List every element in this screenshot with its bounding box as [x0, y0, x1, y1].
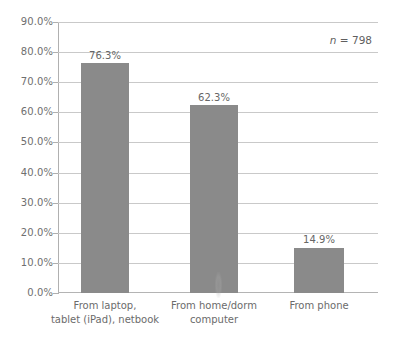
- bar-chart-figure: 90.0% 80.0% 70.0% 60.0% 50.0% 40.0% 30.0…: [0, 0, 396, 343]
- bar-value-label: 62.3%: [178, 92, 250, 103]
- sample-size-annotation: n = 798: [330, 34, 372, 46]
- category-label-line-1: From home/dorm: [171, 300, 257, 311]
- y-tick-label: 80.0%: [1, 47, 53, 57]
- y-tick-label: 40.0%: [1, 168, 53, 178]
- y-tick-label: 20.0%: [1, 228, 53, 238]
- y-tick-label: 50.0%: [1, 137, 53, 147]
- y-tick-label: 70.0%: [1, 77, 53, 87]
- category-label-from-phone: From phone: [263, 299, 375, 313]
- bar-value-label: 76.3%: [69, 50, 141, 61]
- category-label-from-home-dorm-computer: From home/dorm computer: [158, 299, 270, 327]
- category-label-line-2: computer: [158, 313, 270, 327]
- y-tick-label: 30.0%: [1, 198, 53, 208]
- y-tick-label: 90.0%: [1, 17, 53, 27]
- bar-from-laptop-tablet-netbook[interactable]: [81, 63, 129, 293]
- gridline: [58, 22, 378, 23]
- category-label-from-laptop-tablet-netbook: From laptop, tablet (iPad), netbook: [49, 299, 161, 327]
- bar-from-phone[interactable]: [294, 248, 344, 293]
- bar-from-home-dorm-computer[interactable]: [190, 105, 238, 293]
- plot-area: 76.3% 62.3% 14.9% n = 798: [58, 22, 378, 293]
- y-tick-label: 60.0%: [1, 107, 53, 117]
- y-tick-label: 0.0%: [1, 288, 53, 298]
- sample-size-value: = 798: [336, 34, 372, 46]
- y-tick-label: 10.0%: [1, 258, 53, 268]
- y-axis-tick-labels: 90.0% 80.0% 70.0% 60.0% 50.0% 40.0% 30.0…: [0, 22, 53, 293]
- category-label-line-2: tablet (iPad), netbook: [49, 313, 161, 327]
- x-axis-category-labels: From laptop, tablet (iPad), netbook From…: [58, 299, 378, 339]
- category-label-line-1: From phone: [289, 300, 348, 311]
- category-label-line-1: From laptop,: [74, 300, 137, 311]
- bar-value-label: 14.9%: [283, 234, 355, 245]
